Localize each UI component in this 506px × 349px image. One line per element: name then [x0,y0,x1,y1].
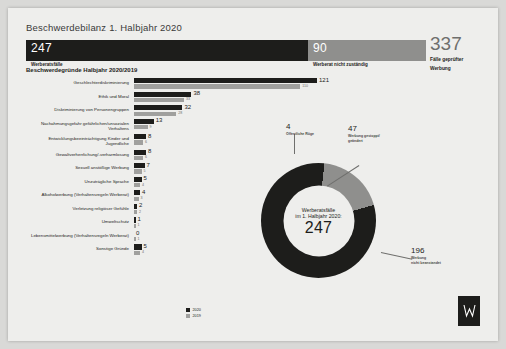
donut-value-4: 4 [286,122,314,131]
bar-row-label: Diskriminierung von Personengruppen [26,105,134,112]
donut-annotation-nicht-beanstandet: 196 Werbung nicht beanstandet [411,246,441,265]
bar-2020: 38 [134,92,191,97]
bar-value-2019: 6 [145,140,147,144]
donut-chart: Werberatsfälle im 1. Halbjahr 2020: 247 … [231,118,481,318]
donut-center-value: 247 [305,218,333,235]
bar-row-label: Gewaltverherrlichung/-verharmlosung [26,150,134,157]
bar-2020: 8 [134,134,146,139]
bar-row-label: Alkoholwerbung (Verhaltensregeln Werbera… [26,190,134,197]
leader-line-rue [294,134,295,154]
bar-2019: 6 [134,140,143,144]
bar-value-2019: 2 [139,210,141,214]
bar-2019: 1 [134,224,136,228]
summary-total-caption-line2: Werbung [430,66,482,72]
bar-row-label: Unzuträgliche Sprache [26,177,134,184]
bar-2019: 33 [134,98,184,102]
summary-total: 337 Fälle geprüfter Werbung [430,34,482,72]
donut-label-gestoppt-line1: Werbung gestoppt/ [348,134,380,138]
bar-row-label: Umweltschutz [26,217,134,224]
infographic-page: Beschwerdebilanz 1. Halbjahr 2020 247 We… [8,8,498,341]
bar-value-2019: 9 [150,125,152,129]
donut-annotation-ruege: 4 Öffentliche Rüge [286,122,314,136]
bar-2020: 8 [134,150,146,155]
bar-2020: 121 [134,78,317,83]
bar-2019: 6 [134,156,143,160]
chart-legend: 2020 2019 [186,308,201,319]
bar-2019: 2 [134,210,137,214]
bar-value-2020: 1 [138,216,141,222]
bar-chart-title: Beschwerdegründe Halbjahr 2020/2019 [26,67,137,73]
donut-label-nicht-beanstandet-line1: Werbung [411,256,441,260]
bar-2020: 7 [134,163,145,168]
summary-value-90: 90 [313,41,327,55]
bar-value-2019: 6 [145,155,147,159]
page-title: Beschwerdebilanz 1. Halbjahr 2020 [26,22,482,33]
legend-label-2019: 2019 [193,314,201,318]
bar-value-2020: 32 [184,104,191,110]
bar-row-label: Sonstige Gründe [26,244,134,251]
bar-row-bars: 3833 [134,92,326,103]
bar-row-label: Geschlechterdiskriminierung [26,78,134,85]
bar-chart-row: Ethik und Moral3833 [26,92,326,103]
bar-2019: 28 [134,112,176,116]
legend-item-2020: 2020 [186,308,201,312]
bar-row-label: Entwicklungsbeeinträchtigung Kinder und … [26,134,134,146]
bar-value-2019: 110 [302,84,308,88]
bar-value-2019: 1 [138,237,140,241]
bar-2019: 4 [134,251,140,255]
bar-2019: 110 [134,84,300,88]
donut-label-nicht-beanstandet-line2: nicht beanstandet [411,261,441,265]
bar-2020: 4 [134,190,140,195]
bar-value-2019: 5 [144,169,146,173]
bar-value-2020: 121 [319,77,329,83]
donut-value-47: 47 [348,124,380,133]
bar-row-label: Verletzung religiöser Gefühle [26,204,134,211]
bar-2020: 13 [134,119,154,124]
bar-2019: 5 [134,169,142,173]
bar-value-2019: 33 [186,97,190,101]
bar-value-2020: 7 [147,162,150,168]
bar-row-bars: 3228 [134,105,326,116]
bar-2019: 3 [134,197,139,201]
bar-2020: 1 [134,217,136,222]
bar-chart-row: Geschlechterdiskriminierung121110 [26,78,326,89]
bar-value-2020: 8 [148,133,151,139]
summary-value-247: 247 [31,41,52,55]
bar-2020: 5 [134,244,142,249]
bar-value-2019: 4 [142,183,144,187]
leader-line-nicht-beanstandet [381,252,412,259]
bar-2019: 1 [134,237,136,241]
bar-row-label: Lebensmittelwerbung (Verhaltensregeln We… [26,231,134,238]
bar-2020: 2 [134,204,137,209]
donut-center: Werberatsfälle im 1. Halbjahr 2020: 247 [283,185,354,256]
donut-value-196: 196 [411,246,441,255]
bar-row-label: Nachahmungsgefahr gefährlichen/unsoziale… [26,119,134,131]
bar-2019: 9 [134,125,148,129]
bar-value-2020: 8 [148,148,151,154]
donut-ring: Werberatsfälle im 1. Halbjahr 2020: 247 [261,163,376,278]
summary-total-caption-line1: Fälle geprüfter [430,57,482,63]
bar-value-2020: 2 [139,202,142,208]
bar-value-2019: 3 [141,196,143,200]
bar-value-2020: 0 [136,230,139,236]
bar-value-2020: 13 [156,117,163,123]
summary-total-value: 337 [430,34,482,54]
bar-row-label: Ethik und Moral [26,92,134,99]
bar-2020: 5 [134,177,142,182]
summary-segment-werberatsfaelle: 247 Werberatsfälle [26,40,308,61]
bar-2019: 4 [134,183,140,187]
summary-segment-nicht-zustaendig: 90 Werberat nicht zuständig [308,40,426,61]
bar-row-label: Sexuell anstößige Werbung [26,163,134,170]
bar-value-2020: 5 [144,243,147,249]
bar-chart-row: Diskriminierung von Personengruppen3228 [26,105,326,116]
infographic-content: Beschwerdebilanz 1. Halbjahr 2020 247 We… [26,22,482,332]
summary-caption-nicht-zustaendig: Werberat nicht zuständig [313,62,368,67]
donut-label-ruege: Öffentliche Rüge [286,132,314,136]
bar-value-2019: 1 [138,223,140,227]
bar-value-2019: 28 [178,111,182,115]
donut-annotation-gestoppt: 47 Werbung gestoppt/ geändert [348,124,380,143]
legend-swatch-2020 [186,308,190,312]
werberat-logo [458,296,480,326]
donut-label-gestoppt-line2: geändert [348,139,380,143]
legend-swatch-2019 [186,314,190,318]
